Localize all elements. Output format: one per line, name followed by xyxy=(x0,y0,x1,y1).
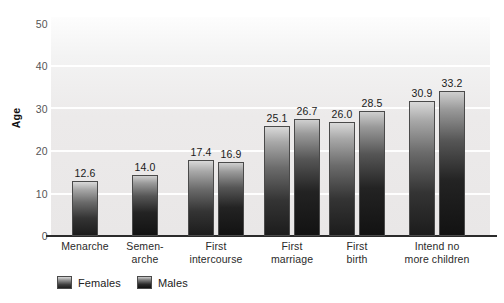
bar-females-0 xyxy=(72,181,98,236)
legend-label-females: Females xyxy=(78,277,121,289)
bar-females-5 xyxy=(409,101,435,236)
y-tick-label-40: 40 xyxy=(4,60,48,72)
bar-males-1-value: 14.0 xyxy=(126,161,164,173)
bar-females-3 xyxy=(264,126,290,236)
category-label-5: Intend no more children xyxy=(382,240,492,265)
legend-item-females: Females xyxy=(57,276,121,289)
bar-males-4-value: 28.5 xyxy=(353,97,391,109)
y-axis-title: Age xyxy=(10,98,22,138)
bar-males-1 xyxy=(132,175,158,236)
y-tick-label-20: 20 xyxy=(4,145,48,157)
y-tick-label-50: 50 xyxy=(4,18,48,30)
bar-chart: 50 40 30 20 10 0 Age 12.614.017.416.925.… xyxy=(0,0,504,303)
bar-males-5 xyxy=(439,91,465,236)
bar-males-2-value: 16.9 xyxy=(212,148,250,160)
males-swatch-icon xyxy=(137,276,152,289)
gridline-40 xyxy=(51,65,490,67)
bar-males-5-value: 33.2 xyxy=(433,77,471,89)
bar-females-2 xyxy=(188,160,214,236)
bar-males-3 xyxy=(294,119,320,236)
legend-item-males: Males xyxy=(137,276,188,289)
bar-males-3-value: 26.7 xyxy=(288,105,326,117)
females-swatch-icon xyxy=(57,276,72,289)
bar-females-0-value: 12.6 xyxy=(66,167,104,179)
bar-females-4-value: 26.0 xyxy=(323,108,361,120)
bar-males-2 xyxy=(218,162,244,236)
y-axis: 50 40 30 20 10 0 Age xyxy=(0,0,48,303)
bar-males-4 xyxy=(359,111,385,236)
bar-females-4 xyxy=(329,122,355,236)
y-tick-label-10: 10 xyxy=(4,188,48,200)
legend: Females Males xyxy=(57,276,188,289)
legend-label-males: Males xyxy=(158,277,188,289)
